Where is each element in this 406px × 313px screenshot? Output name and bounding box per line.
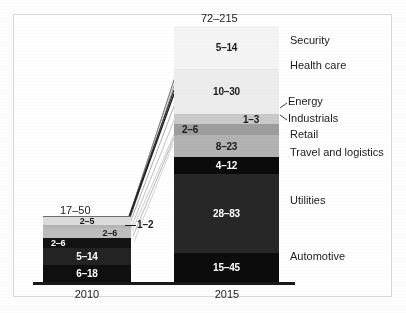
- category-label-retail: Retail: [290, 128, 318, 140]
- category-label-health-care: Health care: [290, 59, 346, 71]
- category-label-travel-and-logistics: Travel and logistics: [290, 146, 384, 158]
- category-label-energy: Energy: [288, 95, 323, 107]
- plot-area: 17–50 2–5 2–6 2–6 5–14 6–18: [13, 14, 392, 297]
- category-label-security: Security: [290, 34, 330, 46]
- category-label-automotive: Automotive: [290, 250, 345, 262]
- category-label-utilities: Utilities: [290, 194, 325, 206]
- category-label-industrials: Industrials: [288, 112, 338, 124]
- chart-canvas: 17–50 2–5 2–6 2–6 5–14 6–18: [0, 0, 406, 313]
